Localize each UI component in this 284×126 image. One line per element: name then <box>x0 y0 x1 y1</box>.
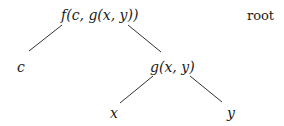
edge-g-x <box>120 76 153 103</box>
edge-f-g <box>128 25 161 52</box>
root-label: root <box>247 9 274 22</box>
node-root-expression: f(c, g(x, y)) <box>61 8 138 22</box>
node-g: g(x, y) <box>150 60 195 74</box>
node-c: c <box>17 60 25 74</box>
node-x: x <box>110 106 118 120</box>
edge-g-y <box>190 76 222 102</box>
tree-edges <box>0 0 284 126</box>
edge-f-c <box>29 25 62 51</box>
node-y: y <box>227 106 235 120</box>
